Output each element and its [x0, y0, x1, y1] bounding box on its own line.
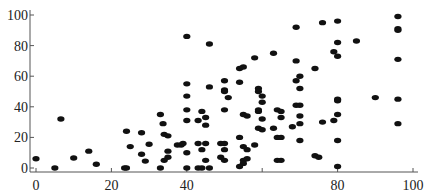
data-point — [183, 81, 190, 86]
data-point — [198, 165, 205, 170]
scatter-chart: 020406080100 0204080100 — [0, 0, 428, 196]
data-point — [353, 38, 360, 43]
data-point — [259, 100, 266, 105]
data-point — [183, 118, 190, 123]
data-point — [93, 161, 100, 166]
data-point — [334, 164, 341, 169]
data-point — [236, 80, 243, 85]
data-point — [259, 93, 266, 98]
data-point — [315, 155, 322, 160]
data-point — [334, 40, 341, 45]
data-point — [293, 78, 300, 83]
data-point — [251, 142, 258, 147]
y-tick-label: 40 — [14, 100, 28, 115]
x-tick-label: 40 — [180, 178, 194, 193]
data-point — [296, 113, 303, 118]
data-point — [183, 34, 190, 39]
data-point — [259, 116, 266, 121]
data-point — [138, 152, 145, 157]
data-point — [161, 158, 168, 163]
data-point — [394, 121, 401, 126]
data-point — [244, 156, 251, 161]
data-point — [236, 164, 243, 169]
data-point — [296, 86, 303, 91]
data-point — [251, 55, 258, 60]
data-point — [225, 95, 232, 100]
data-point — [157, 165, 164, 170]
data-point — [334, 96, 341, 101]
data-point — [221, 107, 228, 112]
data-point — [127, 144, 134, 149]
data-point — [164, 133, 171, 138]
data-point — [334, 18, 341, 23]
data-point — [236, 135, 243, 140]
data-point — [183, 93, 190, 98]
data-point — [32, 156, 39, 161]
data-point — [221, 147, 228, 152]
data-point — [51, 165, 58, 170]
data-point — [221, 158, 228, 163]
x-tick-label: 80 — [331, 178, 345, 193]
data-point — [372, 95, 379, 100]
data-point — [293, 25, 300, 30]
y-tick-label: 20 — [14, 130, 28, 145]
data-point — [270, 51, 277, 56]
data-point — [123, 165, 130, 170]
data-point — [85, 148, 92, 153]
x-tick-label: 100 — [403, 178, 424, 193]
data-point — [206, 41, 213, 46]
y-tick-label: 60 — [14, 69, 28, 84]
data-point — [274, 158, 281, 163]
data-point — [183, 165, 190, 170]
y-tick-label: 100 — [7, 8, 28, 23]
data-point — [202, 115, 209, 120]
data-point — [164, 148, 171, 153]
data-point — [394, 28, 401, 33]
data-point — [394, 96, 401, 101]
data-point — [244, 113, 251, 118]
data-point — [183, 150, 190, 155]
data-point — [240, 64, 247, 69]
data-point — [296, 103, 303, 108]
data-point — [255, 107, 262, 112]
data-point — [221, 78, 228, 83]
data-point — [146, 142, 153, 147]
data-point — [334, 112, 341, 117]
data-point — [195, 141, 202, 146]
data-point — [296, 74, 303, 79]
x-tick-label: 20 — [104, 178, 118, 193]
data-point — [57, 116, 64, 121]
data-points — [32, 14, 401, 171]
data-point — [394, 14, 401, 19]
data-point — [293, 58, 300, 63]
data-point — [244, 147, 251, 152]
data-point — [270, 126, 277, 131]
data-point — [206, 84, 213, 89]
data-point — [123, 129, 130, 134]
data-point — [202, 158, 209, 163]
y-tick-label: 0 — [21, 161, 28, 176]
data-point — [202, 122, 209, 127]
data-point — [183, 107, 190, 112]
data-point — [259, 127, 266, 132]
x-tick-label: 0 — [33, 178, 40, 193]
data-point — [159, 121, 166, 126]
data-point — [394, 57, 401, 62]
data-point — [277, 109, 284, 114]
data-point — [157, 112, 164, 117]
data-point — [330, 49, 337, 54]
data-point — [142, 158, 149, 163]
data-point — [198, 109, 205, 114]
data-point — [277, 115, 284, 120]
y-tick-label: 80 — [14, 39, 28, 54]
data-point — [277, 135, 284, 140]
data-point — [334, 138, 341, 143]
data-point — [311, 66, 318, 71]
data-point — [289, 124, 296, 129]
data-point — [202, 141, 209, 146]
data-point — [319, 119, 326, 124]
data-point — [255, 89, 262, 94]
data-point — [70, 155, 77, 160]
data-point — [330, 118, 337, 123]
data-point — [198, 147, 205, 152]
